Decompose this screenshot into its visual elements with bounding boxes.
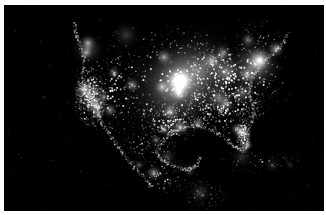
image-subject: Composite satellite view of artificial n…: [0, 0, 1, 1]
image-title: North America at Night: [0, 0, 1, 1]
satellite-image-plate: [4, 5, 324, 211]
night-lights-image-page: North America at Night Composite satelli…: [0, 0, 326, 215]
city-light-speckle-layer: [4, 5, 324, 211]
